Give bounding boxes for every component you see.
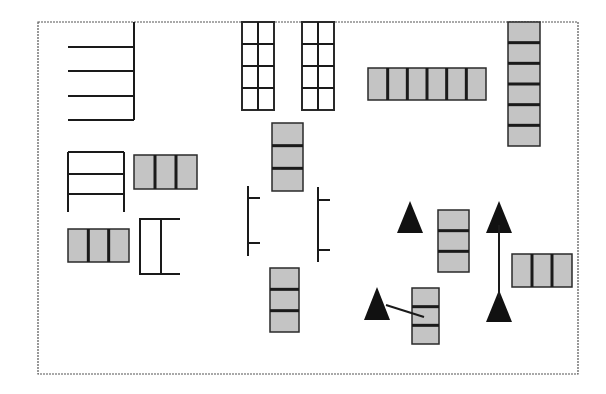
rail-left [248, 186, 260, 256]
bracket-c [140, 219, 180, 274]
grid-shelf-2 [302, 22, 334, 110]
stack-mid-right-3 [438, 210, 469, 272]
stack-low-right-3 [412, 288, 439, 344]
bench-3-a [134, 155, 197, 189]
comb-top-left [68, 22, 134, 120]
bench-horizontal-6 [368, 68, 486, 100]
stack-right-6 [508, 22, 540, 146]
floor-plan-diagram [0, 0, 606, 394]
stack-center-3 [272, 123, 303, 191]
bench-3-right [512, 254, 572, 287]
rail-right [318, 187, 330, 262]
grid-shelf-1 [242, 22, 274, 110]
triangle-1 [397, 201, 423, 233]
ladder-left [68, 152, 124, 212]
triangle-4 [364, 287, 390, 320]
floor-plan-svg [0, 0, 606, 394]
stack-bottom-3 [270, 268, 299, 332]
bench-3-b [68, 229, 129, 262]
